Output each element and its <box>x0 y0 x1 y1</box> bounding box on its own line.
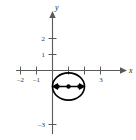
x-tick-label-neg1: –1 <box>32 76 41 84</box>
y-tick-label-1: 1 <box>42 51 46 59</box>
x-axis-label: x <box>128 66 133 75</box>
x-axis-tick-labels: –2 –1 3 <box>16 76 103 84</box>
x-tick-label-3: 3 <box>99 76 103 84</box>
data-point <box>55 84 59 88</box>
y-tick-label-2: 2 <box>42 35 46 43</box>
y-tick-label-neg3: –3 <box>37 121 46 129</box>
y-axis: y <box>49 3 59 134</box>
data-point <box>77 84 81 88</box>
figure-container: x y –2 –1 3 2 <box>0 0 136 140</box>
y-axis-arrowhead <box>49 11 55 18</box>
x-axis-arrowhead <box>120 67 127 73</box>
x-tick-label-neg2: –2 <box>16 76 25 84</box>
y-axis-label: y <box>54 3 59 12</box>
data-point <box>66 84 70 88</box>
data-points <box>55 84 81 88</box>
coordinate-plot: x y –2 –1 3 2 <box>0 0 136 140</box>
